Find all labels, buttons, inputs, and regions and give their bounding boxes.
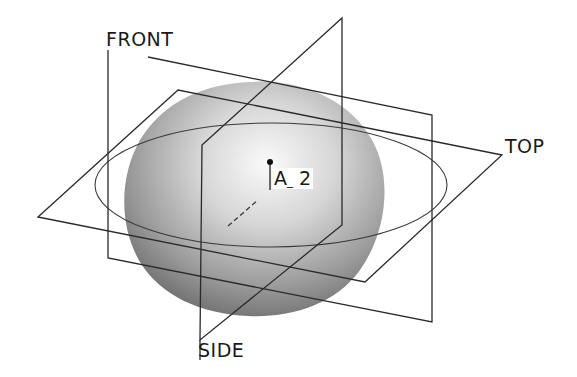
front-plane-label[interactable]: FRONT: [106, 30, 173, 49]
solid-part[interactable]: [124, 82, 384, 317]
axis-label-letter: A: [274, 167, 287, 189]
top-plane-label[interactable]: TOP: [505, 137, 545, 156]
axis-label-underscore: _: [287, 174, 293, 188]
datum-axis-label[interactable]: A_ 2: [272, 168, 313, 189]
axis-label-number: 2: [299, 167, 311, 189]
diagram-canvas: FRONT TOP SIDE A_ 2: [0, 0, 577, 377]
side-plane-label[interactable]: SIDE: [198, 341, 244, 360]
